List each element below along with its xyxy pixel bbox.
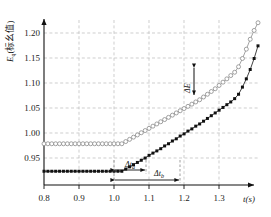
data-point [131, 135, 135, 139]
y-tick-label: 1.15 [24, 53, 40, 63]
data-point [233, 97, 236, 100]
data-point [151, 124, 155, 128]
data-point [140, 159, 143, 162]
data-point [174, 111, 178, 115]
data-point [159, 147, 162, 150]
y-tick-label: 1.20 [24, 28, 40, 38]
data-point [186, 104, 190, 108]
data-point [97, 170, 100, 173]
data-point [104, 142, 108, 146]
data-point [81, 170, 84, 173]
data-point [116, 142, 120, 146]
data-point [70, 170, 73, 173]
data-point [46, 170, 49, 173]
svg-text:Eq(标幺值): Eq(标幺值) [4, 21, 16, 64]
data-point [62, 170, 65, 173]
data-series-layer [42, 21, 260, 173]
data-point [65, 142, 69, 146]
data-point [205, 92, 209, 96]
data-point [163, 118, 167, 122]
data-point [148, 154, 151, 157]
y-tick-label: 1.05 [24, 103, 40, 113]
data-point [147, 126, 151, 130]
x-tick-label: 0.9 [73, 193, 85, 203]
data-point [69, 142, 73, 146]
data-point [171, 140, 174, 143]
data-point [217, 83, 221, 87]
y-axis-label: Eq(标幺值) [4, 21, 16, 64]
chart-svg: 1.20 1.15 1.10 1.05 1.00 0.95 0.8 0.9 1.… [0, 0, 271, 217]
data-point [198, 98, 202, 102]
data-point [89, 142, 93, 146]
data-point [182, 107, 186, 111]
data-point [54, 170, 57, 173]
data-point [198, 122, 201, 125]
data-point [194, 125, 197, 128]
data-point [252, 28, 256, 32]
data-point [245, 77, 248, 80]
data-point [143, 129, 147, 133]
data-point [249, 68, 252, 71]
data-point [214, 111, 217, 114]
data-point [225, 77, 229, 81]
y-tick-label: 1.00 [24, 128, 40, 138]
data-point [221, 106, 224, 109]
data-point [257, 44, 260, 47]
data-point [100, 142, 104, 146]
data-point [190, 127, 193, 130]
data-point [170, 113, 174, 117]
data-point [190, 102, 194, 106]
data-point [237, 65, 241, 69]
y-tick-labels: 1.20 1.15 1.10 1.05 1.00 0.95 [24, 28, 40, 163]
data-point [202, 120, 205, 123]
data-point [61, 142, 65, 146]
data-point [144, 157, 147, 160]
data-point [73, 142, 77, 146]
x-tick-label: 1.2 [178, 193, 189, 203]
delta-e-label: ΔE [183, 83, 192, 94]
data-point [159, 120, 163, 124]
data-point [175, 137, 178, 140]
data-point [77, 142, 81, 146]
data-point [112, 142, 116, 146]
data-point [206, 117, 209, 120]
x-tick-labels: 0.8 0.9 1.0 1.1 1.2 1.3 [38, 193, 225, 203]
x-tick-label: 1.0 [108, 193, 120, 203]
data-point [256, 21, 260, 25]
data-point [240, 57, 244, 61]
data-point [151, 152, 154, 155]
data-point [66, 170, 69, 173]
data-point [74, 170, 77, 173]
y-tick-label: 1.10 [24, 78, 40, 88]
data-point [101, 170, 104, 173]
data-point [81, 142, 85, 146]
data-point [58, 142, 62, 146]
data-point [194, 100, 198, 104]
data-point [54, 142, 58, 146]
data-point [89, 170, 92, 173]
x-tick-label: 1.1 [143, 193, 154, 203]
data-point [108, 142, 112, 146]
data-point [93, 170, 96, 173]
data-point [253, 57, 256, 60]
data-point [128, 137, 132, 141]
annotation-delta-e: ΔE [183, 68, 194, 95]
data-point [210, 114, 213, 117]
data-point [105, 170, 108, 173]
data-point [46, 142, 50, 146]
data-point [43, 170, 46, 173]
data-point [221, 80, 225, 84]
series-filled-square-series [43, 44, 260, 172]
data-point [229, 100, 232, 103]
data-point [120, 142, 124, 146]
data-point [186, 130, 189, 133]
data-point [124, 140, 128, 144]
chart-figure: 1.20 1.15 1.10 1.05 1.00 0.95 0.8 0.9 1.… [0, 0, 271, 217]
data-point [85, 142, 89, 146]
series-line [44, 46, 258, 171]
data-point [213, 87, 217, 91]
data-point [178, 109, 182, 113]
data-point [163, 144, 166, 147]
data-point [93, 142, 97, 146]
y-axis-label-paren: (标幺值) [4, 21, 15, 54]
